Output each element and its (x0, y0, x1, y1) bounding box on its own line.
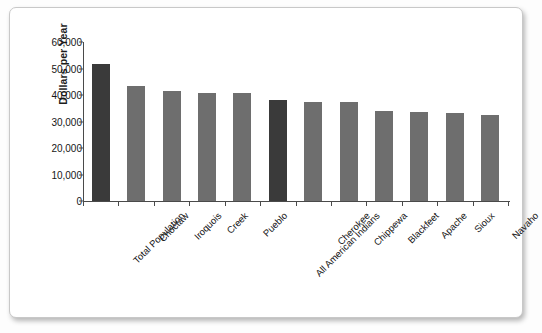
x-tick-mark (260, 202, 261, 206)
x-tick-mark (83, 202, 84, 206)
y-tick-label: 20,000 (32, 143, 82, 154)
bar (304, 102, 322, 201)
bar (163, 91, 181, 201)
bar-fill (304, 102, 322, 201)
y-tick-label: 30,000 (32, 116, 82, 127)
bar (340, 102, 358, 201)
x-tick-label: Pueblo (261, 210, 290, 239)
bar-fill (127, 86, 145, 201)
bar (446, 113, 464, 201)
bar-fill (410, 112, 428, 201)
y-tick-label: 60,000 (32, 37, 82, 48)
bar (375, 111, 393, 201)
bar-fill (375, 111, 393, 201)
bar-fill (233, 93, 251, 201)
x-tick-label: Navaho (510, 210, 541, 241)
x-tick-label: All American Indians (313, 210, 382, 279)
y-tick-label: 0 (32, 196, 82, 207)
y-tick-label: 10,000 (32, 169, 82, 180)
bar (233, 93, 251, 201)
x-tick-label: Iroquois (191, 210, 223, 242)
x-tick-mark (331, 202, 332, 206)
bar (481, 115, 499, 201)
bar-chart: Dollars per Year 010,00020,00030,00040,0… (10, 8, 524, 319)
chart-card: Dollars per Year 010,00020,00030,00040,0… (9, 7, 523, 318)
bar-fill (340, 102, 358, 201)
bar (127, 86, 145, 201)
x-tick-mark (366, 202, 367, 206)
bar (198, 93, 216, 201)
x-tick-mark (473, 202, 474, 206)
x-tick-mark (296, 202, 297, 206)
x-tick-mark (225, 202, 226, 206)
x-tick-mark (118, 202, 119, 206)
y-axis-line (83, 42, 84, 202)
bar (410, 112, 428, 201)
bar-fill (163, 91, 181, 201)
x-tick-label: Blackfeet (405, 210, 440, 245)
bar-fill (481, 115, 499, 201)
y-tick-label: 40,000 (32, 90, 82, 101)
x-tick-mark (154, 202, 155, 206)
x-tick-label: Creek (224, 210, 250, 236)
y-axis-tick-labels: 010,00020,00030,00040,00050,00060,000 (32, 8, 82, 319)
bar-fill (269, 100, 287, 201)
bar-fill (198, 93, 216, 201)
bar (92, 64, 110, 201)
x-tick-mark (437, 202, 438, 206)
x-tick-mark (508, 202, 509, 206)
y-tick-label: 50,000 (32, 63, 82, 74)
bar-fill (446, 113, 464, 201)
x-tick-mark (402, 202, 403, 206)
x-tick-label: Apache (439, 210, 470, 241)
x-tick-label: Sioux (472, 210, 497, 235)
bar (269, 100, 287, 201)
bar-fill (92, 64, 110, 201)
x-tick-mark (189, 202, 190, 206)
screenshot-root: Dollars per Year 010,00020,00030,00040,0… (0, 0, 542, 333)
